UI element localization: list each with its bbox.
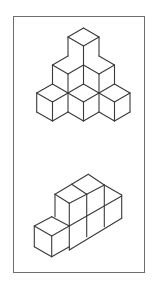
cube-edge bbox=[84, 93, 100, 102]
cube-edge bbox=[37, 112, 53, 121]
cube-edge bbox=[99, 93, 115, 102]
cube-edge bbox=[55, 194, 69, 203]
step-cube-assembly bbox=[34, 174, 121, 256]
cube-edge bbox=[99, 65, 115, 74]
cube-edge bbox=[69, 196, 121, 226]
cube-edge bbox=[37, 84, 53, 93]
cube-edge bbox=[69, 194, 86, 203]
cube-edge bbox=[34, 217, 51, 226]
cube-edge bbox=[68, 28, 84, 37]
cube-edge bbox=[68, 84, 84, 93]
cube-edge bbox=[34, 226, 51, 236]
cube-edge bbox=[53, 65, 69, 74]
cube-edge bbox=[99, 56, 115, 65]
cube-edge bbox=[87, 185, 105, 194]
cube-diagram bbox=[0, 0, 155, 287]
cube-edge bbox=[99, 84, 115, 93]
cube-edge bbox=[52, 247, 70, 257]
cube-edge bbox=[84, 84, 100, 93]
cube-edge bbox=[37, 93, 53, 102]
cube-edge bbox=[53, 56, 69, 65]
cube-edge bbox=[84, 65, 100, 74]
cube-edge bbox=[53, 84, 69, 93]
cube-edge bbox=[68, 65, 84, 74]
cube-edge bbox=[115, 93, 131, 102]
cube-edge bbox=[84, 112, 100, 121]
cube-edge bbox=[68, 37, 84, 46]
cube-edge bbox=[99, 112, 115, 121]
cube-edge bbox=[69, 218, 121, 250]
cube-edge bbox=[53, 112, 69, 121]
cube-edge bbox=[88, 174, 104, 185]
cube-edge bbox=[104, 185, 121, 195]
cube-edge bbox=[53, 93, 69, 102]
cube-edge bbox=[84, 37, 100, 46]
cube-edge bbox=[34, 247, 51, 257]
cube-edge bbox=[52, 217, 70, 226]
cube-edge bbox=[72, 174, 89, 184]
cube-edge bbox=[72, 184, 87, 194]
cube-edge bbox=[115, 112, 131, 121]
pyramid-cube-assembly bbox=[37, 28, 130, 121]
cube-edge bbox=[68, 93, 84, 102]
cube-edge bbox=[68, 112, 84, 121]
cube-edge bbox=[115, 84, 131, 93]
cube-edge bbox=[55, 184, 72, 194]
cube-edge bbox=[52, 226, 70, 236]
cube-edge bbox=[84, 28, 100, 37]
